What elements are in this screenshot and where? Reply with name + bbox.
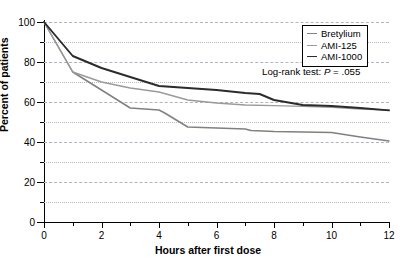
x-tick-label: 12 (383, 230, 394, 241)
y-tick-label: 100 (18, 17, 35, 28)
legend-label: AMI-1000 (321, 51, 362, 63)
annotation-prefix: Log-rank test: (262, 66, 324, 77)
legend-swatch-icon (307, 45, 317, 46)
y-tick-label: 80 (24, 57, 35, 68)
legend-label: Bretylium (321, 28, 361, 40)
x-tick-minor (73, 222, 74, 226)
y-tick (37, 62, 44, 63)
x-tick-label: 10 (326, 230, 337, 241)
x-tick-minor (188, 222, 189, 226)
x-tick-minor (360, 222, 361, 226)
y-tick (37, 182, 44, 183)
log-rank-annotation: Log-rank test: P = .055 (262, 66, 360, 77)
x-tick (217, 222, 218, 228)
figure: Percent of patients Hours after first do… (0, 0, 416, 264)
x-tick-label: 6 (214, 230, 220, 241)
x-tick-minor (245, 222, 246, 226)
x-tick-label: 0 (41, 230, 47, 241)
legend-item-2[interactable]: AMI-1000 (307, 51, 362, 63)
x-axis-title: Hours after first dose (0, 244, 416, 256)
legend-item-1[interactable]: AMI-125 (307, 40, 362, 52)
legend[interactable]: Bretylium AMI-125 AMI-1000 (302, 25, 368, 67)
x-tick-minor (130, 222, 131, 226)
x-tick (389, 222, 390, 228)
annotation-suffix: = .055 (330, 66, 360, 77)
legend-item-0[interactable]: Bretylium (307, 28, 362, 40)
x-tick (102, 222, 103, 228)
y-tick (37, 22, 44, 23)
y-tick-label: 20 (24, 177, 35, 188)
x-tick (159, 222, 160, 228)
x-tick-label: 8 (271, 230, 277, 241)
x-tick (44, 222, 45, 228)
x-tick-minor (303, 222, 304, 226)
y-tick (37, 222, 44, 223)
legend-swatch-icon (307, 56, 317, 57)
y-tick (37, 102, 44, 103)
y-tick-label: 0 (29, 217, 35, 228)
y-tick-label: 60 (24, 97, 35, 108)
x-tick (274, 222, 275, 228)
y-tick (37, 142, 44, 143)
x-tick-label: 2 (99, 230, 105, 241)
legend-label: AMI-125 (321, 40, 357, 52)
x-tick (332, 222, 333, 228)
y-tick-label: 40 (24, 137, 35, 148)
legend-swatch-icon (307, 33, 317, 34)
x-tick-label: 4 (156, 230, 162, 241)
y-axis-title: Percent of patients (0, 37, 10, 132)
